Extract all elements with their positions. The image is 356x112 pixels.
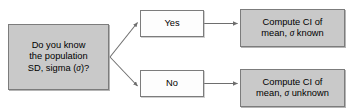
node-compute-ci-sigma-known-label: Compute CI ofmean, σ known [258, 17, 326, 40]
node-no[interactable]: No [140, 70, 204, 97]
node-yes-label: Yes [161, 18, 182, 29]
node-yes[interactable]: Yes [140, 10, 204, 37]
flowchart-canvas: Do you knowthe populationSD, sigma (σ)? … [0, 0, 356, 112]
edge-question-to-yes [110, 23, 138, 58]
node-no-label: No [163, 78, 181, 89]
node-compute-ci-sigma-known[interactable]: Compute CI ofmean, σ known [240, 9, 345, 47]
node-compute-ci-sigma-unknown-label: Compute CI ofmean, σ unknown [253, 77, 332, 100]
edge-question-to-no [110, 57, 138, 86]
node-population-sd-question[interactable]: Do you knowthe populationSD, sigma (σ)? [8, 24, 109, 90]
node-compute-ci-sigma-unknown[interactable]: Compute CI ofmean, σ unknown [240, 69, 345, 107]
node-population-sd-question-label: Do you knowthe populationSD, sigma (σ)? [25, 40, 92, 74]
